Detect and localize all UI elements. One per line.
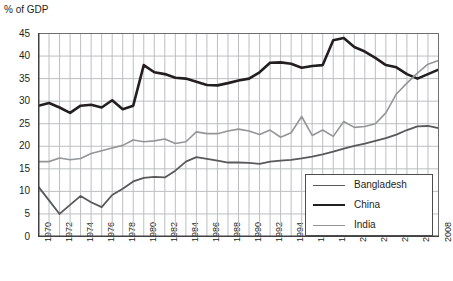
legend-item-bangladesh[interactable]: Bangladesh bbox=[306, 175, 432, 195]
x-tick-label: 2008 bbox=[443, 222, 453, 242]
legend-label: Bangladesh bbox=[354, 180, 407, 190]
legend-label: India bbox=[354, 220, 376, 230]
y-tick-label: 15 bbox=[4, 163, 30, 174]
legend-label: China bbox=[354, 200, 380, 210]
y-tick-label: 30 bbox=[4, 95, 30, 106]
y-tick-label: 20 bbox=[4, 140, 30, 151]
y-tick-label: 40 bbox=[4, 50, 30, 61]
y-tick-label: 25 bbox=[4, 118, 30, 129]
chart-legend: BangladeshChinaIndia bbox=[305, 174, 433, 236]
y-tick-label: 0 bbox=[4, 231, 30, 242]
y-axis-title: % of GDP bbox=[4, 4, 48, 15]
y-tick-label: 45 bbox=[4, 28, 30, 39]
y-tick-label: 5 bbox=[4, 208, 30, 219]
legend-item-india[interactable]: India bbox=[306, 215, 432, 235]
y-tick-label: 10 bbox=[4, 185, 30, 196]
legend-line-swatch bbox=[313, 185, 345, 186]
legend-line-swatch bbox=[313, 225, 345, 226]
y-tick-label: 35 bbox=[4, 73, 30, 84]
legend-item-china[interactable]: China bbox=[306, 195, 432, 215]
legend-line-swatch bbox=[313, 204, 345, 206]
